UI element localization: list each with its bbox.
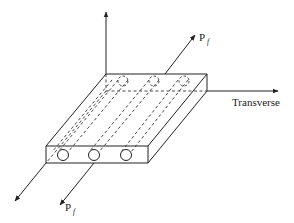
fiber-3 — [121, 76, 190, 161]
load-top-subscript: f — [207, 37, 210, 46]
longitudinal-axis — [15, 163, 46, 201]
transverse-axis: Transverse — [207, 91, 280, 108]
load-arrow-bottom: P f — [60, 163, 94, 216]
load-bottom-label: P — [65, 201, 71, 213]
load-bottom-subscript: f — [73, 207, 76, 216]
load-top-label: P — [199, 31, 205, 43]
fibers — [52, 76, 189, 161]
load-arrow-top: P f — [165, 31, 210, 74]
lamina-diagram: Transverse P f — [0, 0, 294, 223]
transverse-label: Transverse — [232, 96, 280, 108]
